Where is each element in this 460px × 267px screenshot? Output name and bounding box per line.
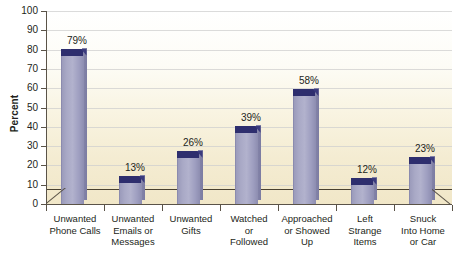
y-tick-label: 100 xyxy=(0,5,38,16)
y-tick-mark xyxy=(41,165,46,166)
x-tick-mark xyxy=(220,205,221,211)
x-tick-mark xyxy=(46,205,47,211)
bar-top-face xyxy=(235,126,257,133)
gridline xyxy=(46,69,452,70)
x-tick-mark xyxy=(278,205,279,211)
bar[interactable] xyxy=(235,129,261,204)
gridline xyxy=(46,50,452,51)
bar[interactable] xyxy=(293,92,319,204)
bar-value-label: 26% xyxy=(166,137,220,148)
bar[interactable] xyxy=(177,154,203,204)
y-tick-mark xyxy=(41,30,46,31)
x-tick-mark xyxy=(452,205,453,211)
bar-top-face xyxy=(119,176,141,183)
bar-front-face xyxy=(61,56,84,204)
x-category-label: Snuck Into Home or Car xyxy=(388,213,458,248)
x-tick-mark xyxy=(336,205,337,211)
bar-chart: Percent 79%13%26%39%58%12%23% 1009080706… xyxy=(0,0,460,267)
bar-top-face xyxy=(409,157,431,164)
plot-area: 79%13%26%39%58%12%23% xyxy=(46,11,452,204)
y-tick-label: 80 xyxy=(0,44,38,55)
bar-value-label: 58% xyxy=(282,75,336,86)
y-tick-mark xyxy=(41,50,46,51)
y-axis-line xyxy=(46,11,47,205)
bar-value-label: 13% xyxy=(108,162,162,173)
gridline xyxy=(46,88,452,89)
x-tick-mark xyxy=(104,205,105,211)
bar-front-face xyxy=(293,96,316,204)
x-tick-mark xyxy=(162,205,163,211)
y-tick-label: 0 xyxy=(0,198,38,209)
x-axis-labels: Unwanted Phone CallsUnwanted Emails or M… xyxy=(46,213,452,267)
y-tick-label: 50 xyxy=(0,102,38,113)
y-tick-label: 70 xyxy=(0,63,38,74)
floor-edge-right xyxy=(432,188,454,205)
bar-value-label: 23% xyxy=(398,143,452,154)
bar-top-face xyxy=(293,89,315,96)
y-tick-label: 40 xyxy=(0,121,38,132)
gridline xyxy=(46,11,452,12)
y-tick-mark xyxy=(41,127,46,128)
bar-value-label: 12% xyxy=(340,164,394,175)
y-tick-label: 60 xyxy=(0,82,38,93)
y-tick-mark xyxy=(41,11,46,12)
bar-front-face xyxy=(177,158,200,204)
bar-front-face xyxy=(119,183,142,204)
bar-value-label: 79% xyxy=(50,35,104,46)
y-tick-mark xyxy=(41,88,46,89)
y-tick-mark xyxy=(41,146,46,147)
y-tick-label: 10 xyxy=(0,179,38,190)
floor-edge-left xyxy=(46,188,66,205)
gridline xyxy=(46,108,452,109)
y-tick-mark xyxy=(41,185,46,186)
bar-top-face xyxy=(177,151,199,158)
bar-top-face xyxy=(61,49,83,56)
bar-front-face xyxy=(409,164,432,204)
bar[interactable] xyxy=(409,160,435,204)
gridline xyxy=(46,30,452,31)
bar-top-face xyxy=(351,178,373,185)
y-tick-label: 30 xyxy=(0,140,38,151)
bar-front-face xyxy=(235,133,258,204)
bar[interactable] xyxy=(61,52,87,204)
y-tick-label: 20 xyxy=(0,159,38,170)
y-tick-label: 90 xyxy=(0,24,38,35)
bar-front-face xyxy=(351,185,374,204)
bar-value-label: 39% xyxy=(224,112,278,123)
x-axis-line xyxy=(46,204,452,205)
bar[interactable] xyxy=(351,181,377,204)
x-tick-mark xyxy=(394,205,395,211)
bar[interactable] xyxy=(119,179,145,204)
y-tick-mark xyxy=(41,69,46,70)
y-tick-mark xyxy=(41,108,46,109)
